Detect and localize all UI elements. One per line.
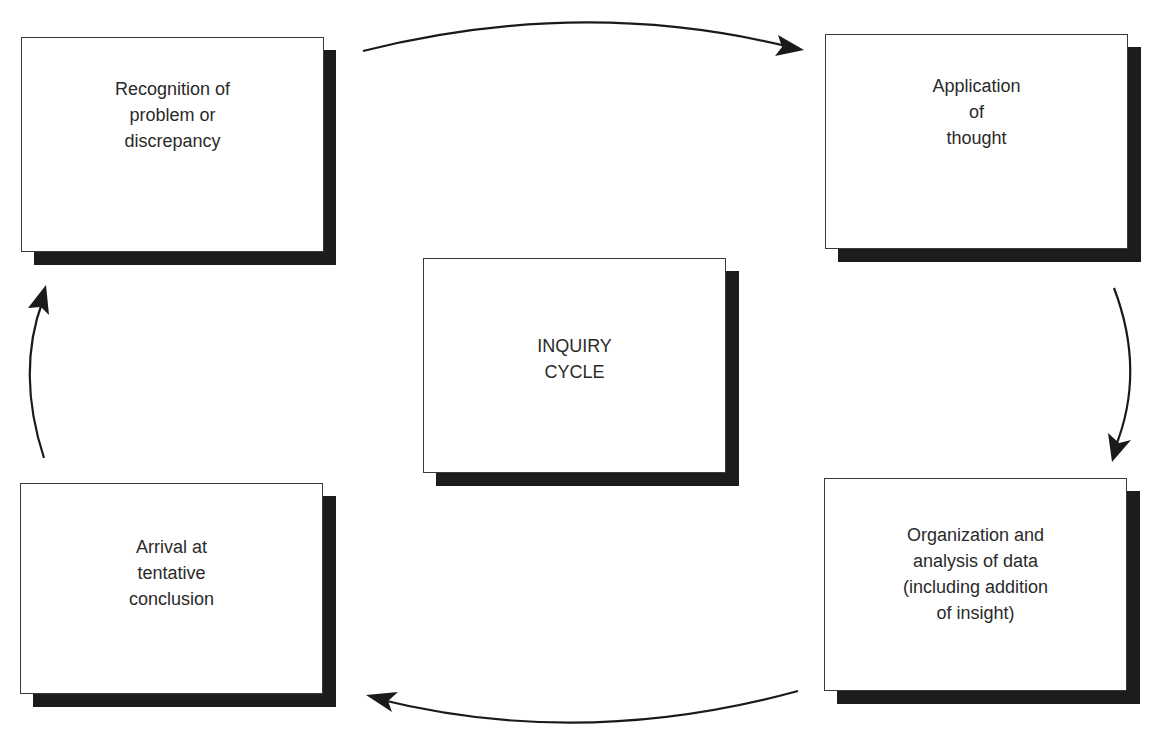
- flow-arrows: [0, 0, 1163, 737]
- arrow-application-to-organization: [1108, 288, 1131, 462]
- arrow-organization-to-conclusion: [366, 691, 798, 723]
- arrow-recognition-to-application: [363, 22, 804, 56]
- arrow-conclusion-to-recognition: [28, 285, 49, 458]
